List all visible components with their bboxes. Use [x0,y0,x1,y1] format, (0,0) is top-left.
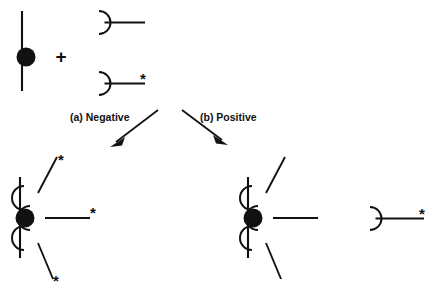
plus-sign: + [55,46,66,67]
arrow-head [110,137,125,147]
labeled-ligand-reactant: * [99,70,146,95]
binding-assay-diagram: + * (a) Negative (b) Positive [0,0,441,301]
product-negative-group: * * * [12,151,96,289]
receptor-dot [244,209,263,228]
radiolabel-asterisk: * [53,272,59,289]
product-positive-group [240,157,318,279]
bound-ligand-stem-upper [38,157,57,193]
radiolabel-asterisk: * [419,205,425,222]
bound-pocket-upper [12,186,24,210]
bound-pocket-lower [12,226,24,250]
reactant-cell-group [17,11,36,91]
caption-positive: (b) Positive [200,111,257,123]
arrow-head [213,135,228,145]
bound-ligand-stem-lower [266,243,281,279]
radiolabel-asterisk: * [90,204,96,221]
diagram-canvas: + * (a) Negative (b) Positive [0,0,441,301]
bound-ligand-stem-upper [266,157,285,193]
receptor-dot [17,48,36,67]
bound-pocket-lower [240,226,252,250]
bound-ligand-stem-lower [38,243,53,279]
bound-pocket-upper [240,186,252,210]
receptor-dot [16,209,35,228]
caption-negative: (a) Negative [70,111,130,123]
free-labeled-ligand: * [370,205,425,230]
unlabeled-ligand-reactant [99,11,145,34]
radiolabel-asterisk: * [140,70,146,87]
radiolabel-asterisk: * [58,151,64,168]
